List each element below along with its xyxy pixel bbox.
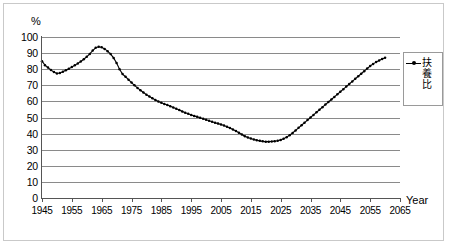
data-point-marker [318,109,321,112]
data-point-marker [321,106,324,109]
data-point-marker [130,81,133,84]
data-point-marker [208,119,211,122]
data-point-marker [184,111,187,114]
data-point-marker [270,140,273,143]
y-tick-label: 20 [27,161,38,171]
data-point-marker [333,96,336,99]
y-tick-label: 40 [27,129,38,139]
data-point-marker [71,66,74,69]
data-point-marker [77,62,80,65]
data-point-marker [375,61,378,64]
data-point-marker [202,118,205,121]
data-point-marker [68,67,71,70]
data-point-marker [369,65,372,68]
data-point-marker [294,129,297,132]
data-point-marker [151,97,154,100]
data-point-marker [196,116,199,119]
data-point-marker [342,88,345,91]
data-point-marker [56,72,59,75]
x-tick [221,198,222,202]
data-point-marker [103,48,106,51]
data-point-marker [166,104,169,107]
data-point-marker [154,99,157,102]
data-point-marker [250,137,253,140]
chart-screenshot: % 1009080706050403020100 194519551965197… [0,0,449,245]
data-point-marker [232,128,235,131]
plot-area [42,37,400,198]
data-point-marker [59,72,62,75]
data-point-marker [65,69,68,72]
legend-label-char: 比 [421,79,433,90]
data-point-marker [276,139,279,142]
x-tick [102,198,103,202]
x-tick-label: 1945 [27,205,57,216]
data-point-marker [288,134,291,137]
data-point-marker [163,103,166,106]
data-point-marker [50,69,53,72]
x-axis-unit-label: Year [406,194,428,206]
x-tick-label: 2025 [266,205,296,216]
data-point-marker [139,89,142,92]
y-tick-label: 60 [27,96,38,106]
x-tick-label: 1975 [117,205,147,216]
data-point-marker [217,122,220,125]
data-point-marker [62,71,65,74]
data-point-marker [363,70,366,73]
data-point-marker [267,140,270,143]
x-tick-label: 2005 [206,205,236,216]
data-point-marker [273,140,276,143]
y-tick-label: 10 [27,177,38,187]
data-point-marker [339,90,342,93]
data-point-marker [205,119,208,122]
data-point-marker [160,101,163,104]
data-point-marker [300,124,303,127]
data-point-marker [253,138,256,141]
data-point-marker [193,115,196,118]
data-point-marker [121,73,124,76]
data-point-marker [181,110,184,113]
data-point-marker [53,71,56,74]
data-point-marker [256,139,258,142]
x-tick [191,198,192,202]
data-point-marker [229,127,232,130]
data-point-marker [91,49,94,52]
data-point-marker [345,85,348,88]
data-point-marker [44,64,47,67]
x-tick-label: 1985 [146,205,176,216]
data-point-marker [384,57,387,60]
data-point-marker [74,64,77,67]
data-point-marker [357,75,360,78]
data-point-marker [83,58,86,61]
data-point-marker [124,76,127,79]
x-tick-label: 2045 [325,205,355,216]
data-point-marker [178,109,181,112]
data-point-marker [381,58,384,61]
data-point-marker [136,87,139,90]
data-point-marker [324,103,327,106]
data-point-marker [220,123,223,126]
x-tick-label: 1955 [57,205,87,216]
data-point-marker [315,111,318,114]
data-point-marker [157,100,160,103]
data-point-marker [291,132,294,135]
data-point-marker [238,132,241,135]
data-point-marker [312,114,315,117]
data-point-marker [172,106,175,109]
data-point-marker [279,139,282,142]
data-point-marker [214,121,217,124]
data-point-marker [336,93,339,96]
data-point-marker [133,84,136,87]
data-point-marker [190,114,193,117]
x-tick [370,198,371,202]
data-point-marker [282,138,285,141]
x-tick [72,198,73,202]
data-point-marker [118,68,121,71]
data-point-marker [115,62,118,65]
legend-label-char: 養 [421,68,433,79]
legend-label-char: 扶 [421,57,433,68]
x-tick-label: 2035 [296,205,326,216]
y-tick-label: 70 [27,80,38,90]
data-point-marker [211,120,214,123]
legend-entry-label: 扶養比 [421,57,433,90]
data-point-marker [187,113,190,116]
